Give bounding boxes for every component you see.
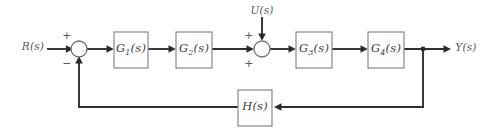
output-takeoff-node xyxy=(421,47,426,52)
block-label-g3: G3(s) xyxy=(299,43,329,57)
block-label-g3-suffix: (s) xyxy=(314,41,329,55)
sum1-minus-sign: − xyxy=(62,58,71,69)
wire-g2-to-sum2 xyxy=(212,45,254,53)
block-label-g2-suffix: (s) xyxy=(194,41,209,55)
wire-g4-to-output xyxy=(404,45,451,53)
wire-sum1-to-g1 xyxy=(87,45,114,53)
block-label-g3-base: G xyxy=(299,41,308,55)
summing-junction-1[interactable] xyxy=(71,41,87,57)
wire-g1-to-g2 xyxy=(148,45,176,53)
block-label-g4: G4(s) xyxy=(371,43,401,57)
block-label-g4-suffix: (s) xyxy=(386,41,401,55)
block-label-g1: G1(s) xyxy=(116,43,146,57)
block-label-g4-base: G xyxy=(371,41,380,55)
wire-disturbance-to-sum2 xyxy=(258,18,266,41)
block-label-h-base: H xyxy=(242,99,252,113)
sum2-plus-sign-top: + xyxy=(244,30,253,41)
disturbance-input-label: U(s) xyxy=(250,5,273,16)
block-label-g2: G2(s) xyxy=(179,43,209,57)
block-label-g1-suffix: (s) xyxy=(131,41,146,55)
output-label: Y(s) xyxy=(455,42,476,53)
sum1-plus-sign: + xyxy=(62,30,71,41)
block-label-h: H(s) xyxy=(242,101,268,115)
block-label-g1-base: G xyxy=(116,41,125,55)
block-label-h-suffix: (s) xyxy=(252,99,267,113)
block-label-g2-base: G xyxy=(179,41,188,55)
sum2-plus-sign-bottom: + xyxy=(244,58,253,69)
wire-reference-to-sum1 xyxy=(48,45,73,53)
summing-junction-2[interactable] xyxy=(254,41,270,57)
wire-g3-to-g4 xyxy=(332,45,368,53)
wire-rail-to-h xyxy=(274,103,423,111)
block-diagram-canvas: R(s) U(s) Y(s) G1(s) G2(s) G3(s) G4(s) H… xyxy=(0,0,489,133)
reference-input-label: R(s) xyxy=(22,41,44,52)
wire-h-to-sum1 xyxy=(75,56,238,107)
wire-sum2-to-g3 xyxy=(270,45,296,53)
